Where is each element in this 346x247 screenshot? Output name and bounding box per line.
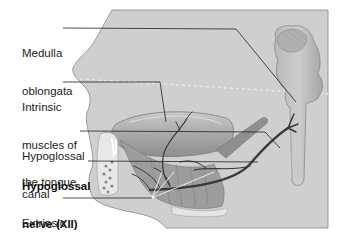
- label-line: Hypoglossal: [22, 180, 90, 193]
- label-line: Medulla: [22, 47, 73, 60]
- mandible: [97, 132, 118, 195]
- hypoglossal-nerve-diagram: Medulla oblongata Intrinsic muscles of t…: [0, 0, 346, 247]
- label-extrinsic-muscles: Extrinsic muscles of the tongue: [22, 192, 77, 247]
- label-line: Extrinsic: [22, 217, 77, 230]
- label-line: Intrinsic: [22, 101, 77, 114]
